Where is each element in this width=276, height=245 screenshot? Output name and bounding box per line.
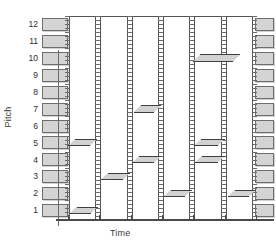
rail-rung — [127, 100, 132, 101]
right-key-5[interactable] — [255, 136, 274, 149]
rail-rung — [95, 140, 100, 141]
rail-rung — [65, 52, 70, 53]
rail-rung — [95, 184, 100, 185]
y-axis-tick-5: 5 — [22, 139, 38, 148]
rail-rung — [189, 92, 194, 93]
rail-rung — [221, 84, 226, 85]
rail-rung — [65, 44, 70, 45]
rail-rung — [158, 68, 163, 69]
rail-rung — [252, 20, 257, 21]
rail-rung — [127, 60, 132, 61]
right-key-9[interactable] — [255, 69, 274, 82]
time-column-top-2 — [100, 16, 127, 17]
rail-rung — [252, 76, 257, 77]
rail-rung — [127, 196, 132, 197]
note-edge-bottom — [164, 196, 185, 197]
rail-rung — [221, 120, 226, 121]
rail-rung — [95, 200, 100, 201]
rail-rung — [221, 112, 226, 113]
rail-rung — [127, 160, 132, 161]
y-axis-tick-6: 6 — [22, 122, 38, 131]
right-key-7[interactable] — [255, 103, 274, 116]
rail-rung — [65, 148, 70, 149]
rail-rung — [189, 164, 194, 165]
y-axis-tick-12: 12 — [22, 20, 38, 29]
y-axis-tick-10: 10 — [22, 54, 38, 63]
rail-rung — [158, 56, 163, 57]
note-edge-top — [235, 190, 256, 191]
divider-rail-6 — [252, 16, 257, 219]
rail-rung — [221, 136, 226, 137]
rail-rung — [158, 64, 163, 65]
rail-rung — [95, 172, 100, 173]
rail-rung — [221, 96, 226, 97]
right-key-11[interactable] — [255, 35, 274, 48]
rail-rung — [127, 52, 132, 53]
rail-rung — [127, 96, 132, 97]
right-key-12[interactable] — [255, 18, 274, 31]
rail-rung — [65, 200, 70, 201]
rail-rung — [127, 124, 132, 125]
rail-rung — [221, 44, 226, 45]
rail-rung — [95, 68, 100, 69]
rail-rung — [189, 40, 194, 41]
rail-rung — [252, 88, 257, 89]
rail-rung — [158, 100, 163, 101]
rail-rung — [189, 176, 194, 177]
rail-rung — [252, 160, 257, 161]
y-axis-tick-3: 3 — [22, 172, 38, 181]
rail-rung — [127, 132, 132, 133]
rail-rung — [221, 88, 226, 89]
right-key-10[interactable] — [255, 52, 274, 65]
rail-rung — [158, 204, 163, 205]
rail-rung — [158, 160, 163, 161]
time-column-1 — [69, 16, 96, 219]
rail-rung — [95, 152, 100, 153]
rail-rung — [189, 108, 194, 109]
rail-rung — [158, 32, 163, 33]
rail-rung — [158, 76, 163, 77]
right-key-1[interactable] — [255, 204, 274, 217]
rail-rung — [189, 28, 194, 29]
right-key-4[interactable] — [255, 153, 274, 166]
rail-rung — [252, 28, 257, 29]
rail-rung — [221, 132, 226, 133]
rail-rung — [252, 32, 257, 33]
rail-rung — [221, 160, 226, 161]
rail-rung — [189, 112, 194, 113]
rail-rung — [189, 120, 194, 121]
rail-rung — [127, 80, 132, 81]
x-axis-tick-3 — [162, 215, 163, 221]
y-axis-tick-7: 7 — [22, 105, 38, 114]
right-key-3[interactable] — [255, 170, 274, 183]
rail-rung — [252, 124, 257, 125]
rail-rung — [127, 16, 132, 17]
rail-rung — [158, 60, 163, 61]
x-axis-tick-1 — [99, 215, 100, 221]
rail-rung — [189, 56, 194, 57]
rail-rung — [95, 36, 100, 37]
rail-rung — [221, 200, 226, 201]
rail-rung — [252, 96, 257, 97]
rail-rung — [158, 136, 163, 137]
rail-rung — [65, 132, 70, 133]
pianoroll-chart: Pitch Time 121110987654321 — [0, 0, 276, 245]
x-axis-tick-0 — [68, 215, 69, 221]
rail-rung — [221, 188, 226, 189]
rail-rung — [189, 184, 194, 185]
right-key-8[interactable] — [255, 86, 274, 99]
right-key-2[interactable] — [255, 187, 274, 200]
rail-rung — [189, 96, 194, 97]
rail-rung — [158, 72, 163, 73]
rail-rung — [127, 92, 132, 93]
divider-rail-3 — [158, 16, 163, 219]
time-column-top-6 — [226, 16, 253, 17]
right-key-6[interactable] — [255, 120, 274, 133]
rail-rung — [221, 164, 226, 165]
rail-rung — [158, 200, 163, 201]
rail-rung — [252, 168, 257, 169]
rail-rung — [221, 92, 226, 93]
rail-rung — [221, 72, 226, 73]
rail-rung — [127, 180, 132, 181]
rail-rung — [221, 144, 226, 145]
